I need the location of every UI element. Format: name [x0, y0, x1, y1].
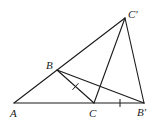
geometry-diagram: A B C B′ C′	[0, 0, 154, 131]
label-point-b: B	[46, 59, 53, 71]
label-point-c-prime: C′	[128, 8, 138, 20]
segment-c-prime-b-prime	[125, 18, 144, 103]
label-point-c: C	[89, 107, 97, 119]
segment-a-c-prime	[14, 18, 125, 103]
label-point-a: A	[9, 107, 17, 119]
label-point-b-prime: B′	[137, 106, 147, 118]
